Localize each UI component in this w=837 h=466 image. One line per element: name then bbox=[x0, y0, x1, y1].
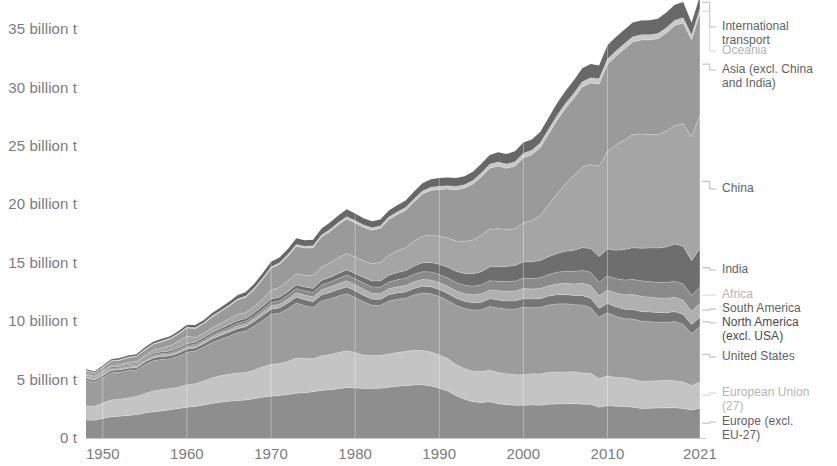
legend-connector-line bbox=[702, 11, 716, 51]
legend-connector-line bbox=[702, 322, 716, 323]
y-axis-tick-label: 15 billion t bbox=[8, 254, 77, 271]
legend-item-label: United States bbox=[722, 350, 795, 364]
legend-connector-line bbox=[702, 354, 716, 357]
legend-connector-line bbox=[702, 2, 716, 27]
legend-item-label: Europe (excl. EU-27) bbox=[722, 415, 793, 442]
legend-item-label: Africa bbox=[722, 288, 753, 302]
legend-item-label: India bbox=[722, 263, 748, 277]
legend-connectors bbox=[702, 2, 716, 423]
legend-item-label: Oceania bbox=[722, 44, 767, 58]
x-axis-tick-label: 2000 bbox=[493, 445, 553, 462]
y-axis-tick-label: 0 t bbox=[60, 429, 77, 446]
x-axis-tick-label: 1970 bbox=[241, 445, 301, 462]
y-axis-tick-label: 20 billion t bbox=[8, 195, 77, 212]
legend-connector-line bbox=[702, 309, 716, 310]
legend-connector-line bbox=[702, 422, 716, 423]
stacked-area-chart: 35 billion t30 billion t25 billion t20 b… bbox=[0, 0, 837, 466]
legend-item-label: South America bbox=[722, 302, 801, 316]
legend-connector-line bbox=[702, 268, 716, 270]
legend-connector-line bbox=[702, 393, 716, 395]
chart-canvas bbox=[0, 0, 837, 466]
y-axis-tick-label: 35 billion t bbox=[8, 20, 77, 37]
legend-item-label: European Union (27) bbox=[722, 386, 809, 413]
y-axis-tick-label: 30 billion t bbox=[8, 79, 77, 96]
legend-item-label: Asia (excl. China and India) bbox=[722, 63, 813, 90]
y-axis-tick-label: 10 billion t bbox=[8, 312, 77, 329]
x-axis-tick-label: 1950 bbox=[73, 445, 133, 462]
x-axis-tick-label: 1990 bbox=[409, 445, 469, 462]
x-axis-tick-label: 1980 bbox=[325, 445, 385, 462]
x-axis-tick-label: 2010 bbox=[577, 445, 637, 462]
x-axis-tick-label: 2021 bbox=[670, 445, 730, 462]
y-axis-tick-label: 25 billion t bbox=[8, 137, 77, 154]
legend-item-label: China bbox=[722, 182, 754, 196]
legend-connector-line bbox=[702, 181, 716, 189]
legend-item-label: North America (excl. USA) bbox=[722, 316, 799, 343]
legend-connector-line bbox=[702, 64, 716, 70]
x-axis-tick-label: 1960 bbox=[157, 445, 217, 462]
y-axis-tick-label: 5 billion t bbox=[17, 371, 77, 388]
